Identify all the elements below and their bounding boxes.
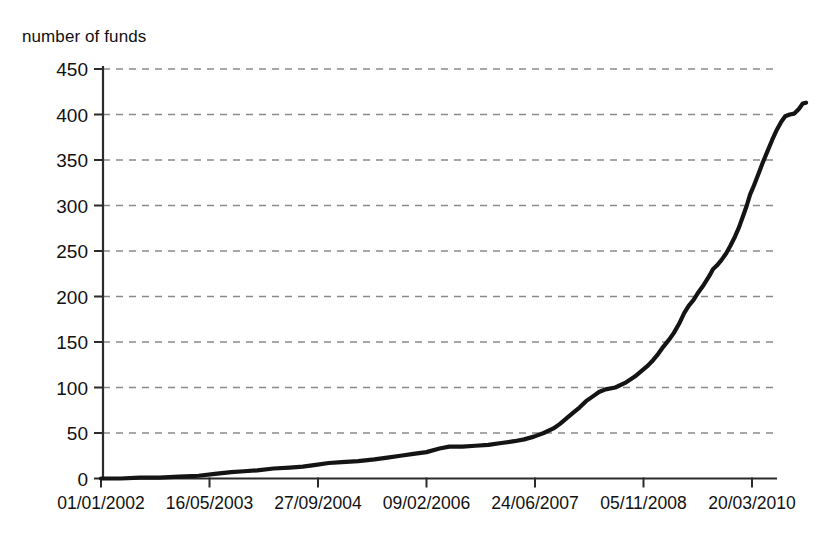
y-tick-label-50: 50 — [36, 424, 88, 443]
axis-tick-marks — [94, 69, 752, 488]
y-tick-label-200: 200 — [36, 288, 88, 307]
y-tick-label-100: 100 — [36, 379, 88, 398]
series-line-cumulative-funds — [101, 103, 806, 479]
chart-plot-area — [0, 0, 824, 545]
y-tick-label-350: 350 — [36, 151, 88, 170]
x-tick-label-09-02-2006: 09/02/2006 — [383, 494, 471, 512]
x-tick-label-27-09-2004: 27/09/2004 — [274, 494, 362, 512]
chart-container: number of funds 050100150200250300350400… — [0, 0, 824, 545]
y-tick-label-0: 0 — [36, 470, 88, 489]
y-tick-label-300: 300 — [36, 197, 88, 216]
x-tick-label-20-03-2010: 20/03/2010 — [708, 494, 796, 512]
x-tick-label-24-06-2007: 24/06/2007 — [491, 494, 579, 512]
y-tick-label-150: 150 — [36, 333, 88, 352]
x-tick-label-01-01-2002: 01/01/2002 — [57, 494, 145, 512]
y-tick-label-250: 250 — [36, 242, 88, 261]
gridlines — [103, 69, 777, 433]
y-tick-label-400: 400 — [36, 106, 88, 125]
x-tick-label-05-11-2008: 05/11/2008 — [600, 494, 686, 512]
x-tick-label-16-05-2003: 16/05/2003 — [166, 494, 254, 512]
y-tick-label-450: 450 — [36, 60, 88, 79]
